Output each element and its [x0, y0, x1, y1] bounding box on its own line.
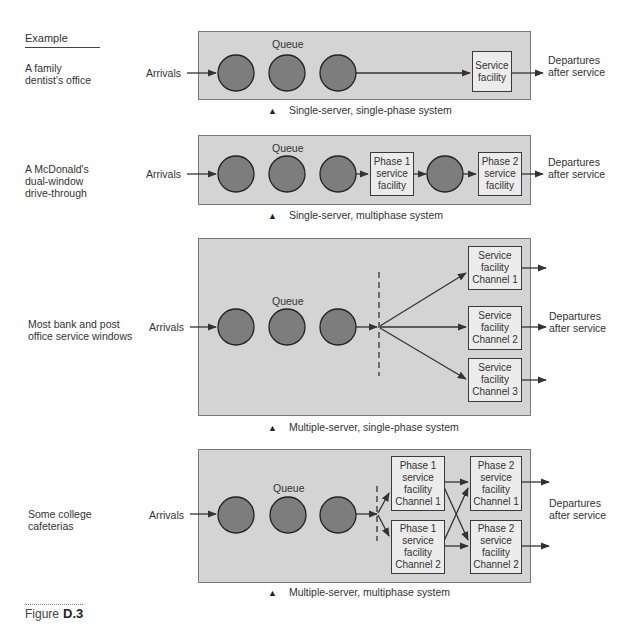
departures-label: Departures after service — [549, 497, 606, 521]
queue-customer-circle — [218, 55, 254, 91]
up-triangle-icon: ▲ — [268, 211, 277, 221]
queue-customer-circle — [320, 497, 356, 533]
up-triangle-icon: ▲ — [268, 588, 277, 598]
service-facility-box: Service facility — [472, 51, 512, 92]
figure-number: D.3 — [63, 606, 83, 621]
phase-2-channel-1-box: Phase 2 service facility Channel 1 — [470, 456, 522, 511]
queue-customer-circle — [269, 309, 305, 345]
flow-graphics — [0, 0, 635, 626]
departures-label: Departures after service — [548, 54, 605, 78]
queue-customer-circle — [269, 55, 305, 91]
queue-customer-circle — [320, 55, 356, 91]
phase-2-facility-box: Phase 2 service facility — [478, 152, 522, 196]
phase-1-channel-2-box: Phase 1 service facility Channel 2 — [391, 520, 445, 574]
departures-label: Departures after service — [548, 156, 605, 180]
departures-label: Departures after service — [549, 310, 606, 334]
phase-2-channel-2-box: Phase 2 service facility Channel 2 — [470, 520, 522, 574]
queue-customer-circle — [320, 309, 356, 345]
channel-2-facility-box: Service facility Channel 2 — [468, 306, 522, 350]
queue-customer-circle — [269, 156, 305, 192]
queue-customer-circle — [218, 309, 254, 345]
figure-label: FigureD.3 — [25, 604, 83, 621]
caption-multiple-server-multiphase: ▲Multiple-server, multiphase system — [268, 586, 450, 598]
phase-1-facility-box: Phase 1 service facility — [370, 152, 414, 196]
caption-single-server-multiphase: ▲Single-server, multiphase system — [268, 209, 443, 221]
caption-multiple-server-single-phase: ▲Multiple-server, single-phase system — [268, 421, 459, 433]
phase-1-channel-1-box: Phase 1 service facility Channel 1 — [391, 456, 445, 511]
channel-1-facility-box: Service facility Channel 1 — [468, 246, 522, 290]
caption-single-server-single-phase: ▲Single-server, single-phase system — [268, 104, 452, 116]
up-triangle-icon: ▲ — [268, 423, 277, 433]
channel-3-facility-box: Service facility Channel 3 — [468, 358, 522, 402]
queue-customer-circle — [320, 156, 356, 192]
up-triangle-icon: ▲ — [268, 106, 277, 116]
queue-customer-circle — [218, 497, 254, 533]
queue-customer-circle — [270, 497, 306, 533]
queue-customer-circle — [427, 156, 463, 192]
queue-customer-circle — [218, 156, 254, 192]
